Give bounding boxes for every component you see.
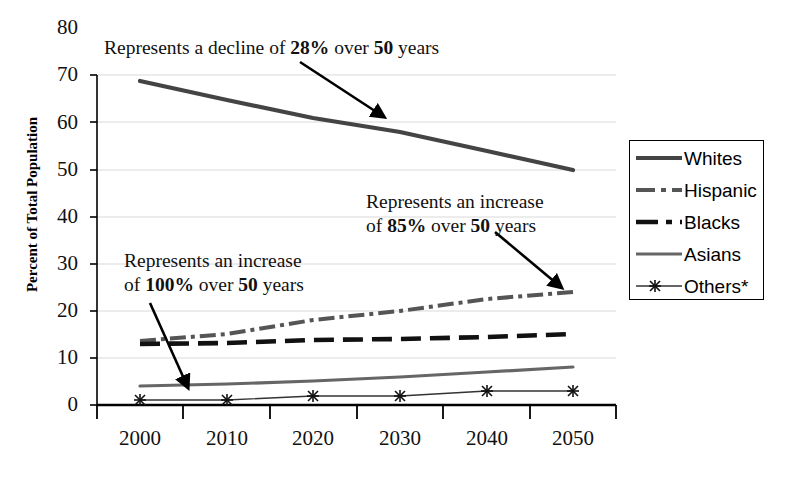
legend-swatch-blacks-line — [635, 212, 683, 232]
legend-label-others: Others* — [684, 277, 748, 296]
legend-swatch-whites-line — [635, 148, 683, 168]
legend-item-asians[interactable]: Asians — [630, 238, 765, 270]
legend-swatch-others-line — [635, 276, 683, 296]
annotation-increase-100-years: 50 — [238, 274, 258, 295]
population-projection-chart: Percent of Total Population 80 70 60 50 … — [0, 0, 792, 478]
y-tick-label-20: 20 — [32, 300, 78, 321]
legend-item-others[interactable]: Others* — [630, 270, 765, 302]
y-tick-label-40: 40 — [32, 206, 78, 227]
y-tick-label-70: 70 — [32, 64, 78, 85]
annotation-decline-text-1: Represents a decline of — [104, 37, 290, 58]
annotation-increase-100-line-1: Represents an increase — [124, 249, 304, 273]
annotation-increase-85-value: 85% — [387, 215, 426, 236]
annotation-decline-years: 50 — [374, 37, 394, 58]
annotation-increase-100-text-1: of — [124, 274, 145, 295]
annotation-arrow-decline — [300, 62, 378, 113]
annotation-increase-85-line-2: of 85% over 50 years — [366, 214, 544, 238]
legend-label-asians: Asians — [684, 245, 741, 264]
x-tick-label-2040: 2040 — [442, 428, 532, 449]
annotation-increase-100-value: 100% — [145, 274, 194, 295]
y-tick-label-50: 50 — [32, 159, 78, 180]
annotation-decline-value: 28% — [290, 37, 329, 58]
y-tick-label-80: 80 — [32, 17, 78, 38]
annotation-decline: Represents a decline of 28% over 50 year… — [104, 36, 439, 60]
legend-label-whites: Whites — [684, 149, 742, 168]
annotation-increase-85-text-3: years — [490, 215, 536, 236]
annotation-increase-85-years: 50 — [471, 215, 491, 236]
legend-swatch-hispanic-line — [635, 180, 683, 200]
legend-swatch-asians-line — [635, 244, 683, 264]
x-axis-ticks — [97, 405, 616, 419]
annotation-arrow-increase85 — [495, 232, 556, 283]
legend-item-hispanic[interactable]: Hispanic — [630, 174, 765, 206]
annotation-increase-85-line-1: Represents an increase — [366, 190, 544, 214]
legend-label-hispanic: Hispanic — [684, 181, 757, 200]
series-line-hispanic — [140, 292, 573, 341]
annotation-increase-100-text-2: over — [194, 274, 238, 295]
annotation-increase-85-text-1: of — [366, 215, 387, 236]
legend-label-blacks: Blacks — [684, 213, 740, 232]
y-axis-ticks — [90, 75, 97, 405]
chart-legend: Whites Hispanic Blacks Asians — [629, 140, 764, 300]
x-tick-label-2010: 2010 — [182, 428, 272, 449]
annotation-increase-85: Represents an increase of 85% over 50 ye… — [366, 190, 544, 238]
annotation-increase-85-text-2: over — [426, 215, 470, 236]
x-tick-label-2050: 2050 — [528, 428, 618, 449]
annotation-decline-text-2: over — [329, 37, 373, 58]
y-tick-label-0: 0 — [32, 394, 78, 415]
series-line-whites — [140, 81, 573, 170]
annotation-increase-100-line-2: of 100% over 50 years — [124, 273, 304, 297]
annotation-increase-100-text-3: years — [258, 274, 304, 295]
series-line-asians — [140, 367, 573, 386]
x-tick-label-2000: 2000 — [95, 428, 185, 449]
series-line-others — [140, 391, 573, 400]
x-tick-label-2020: 2020 — [268, 428, 358, 449]
legend-item-whites[interactable]: Whites — [630, 142, 765, 174]
y-tick-label-30: 30 — [32, 253, 78, 274]
annotation-increase-100: Represents an increase of 100% over 50 y… — [124, 249, 304, 297]
legend-item-blacks[interactable]: Blacks — [630, 206, 765, 238]
annotation-decline-text-3: years — [393, 37, 439, 58]
y-tick-label-60: 60 — [32, 112, 78, 133]
y-tick-label-10: 10 — [32, 347, 78, 368]
x-tick-label-2030: 2030 — [355, 428, 445, 449]
